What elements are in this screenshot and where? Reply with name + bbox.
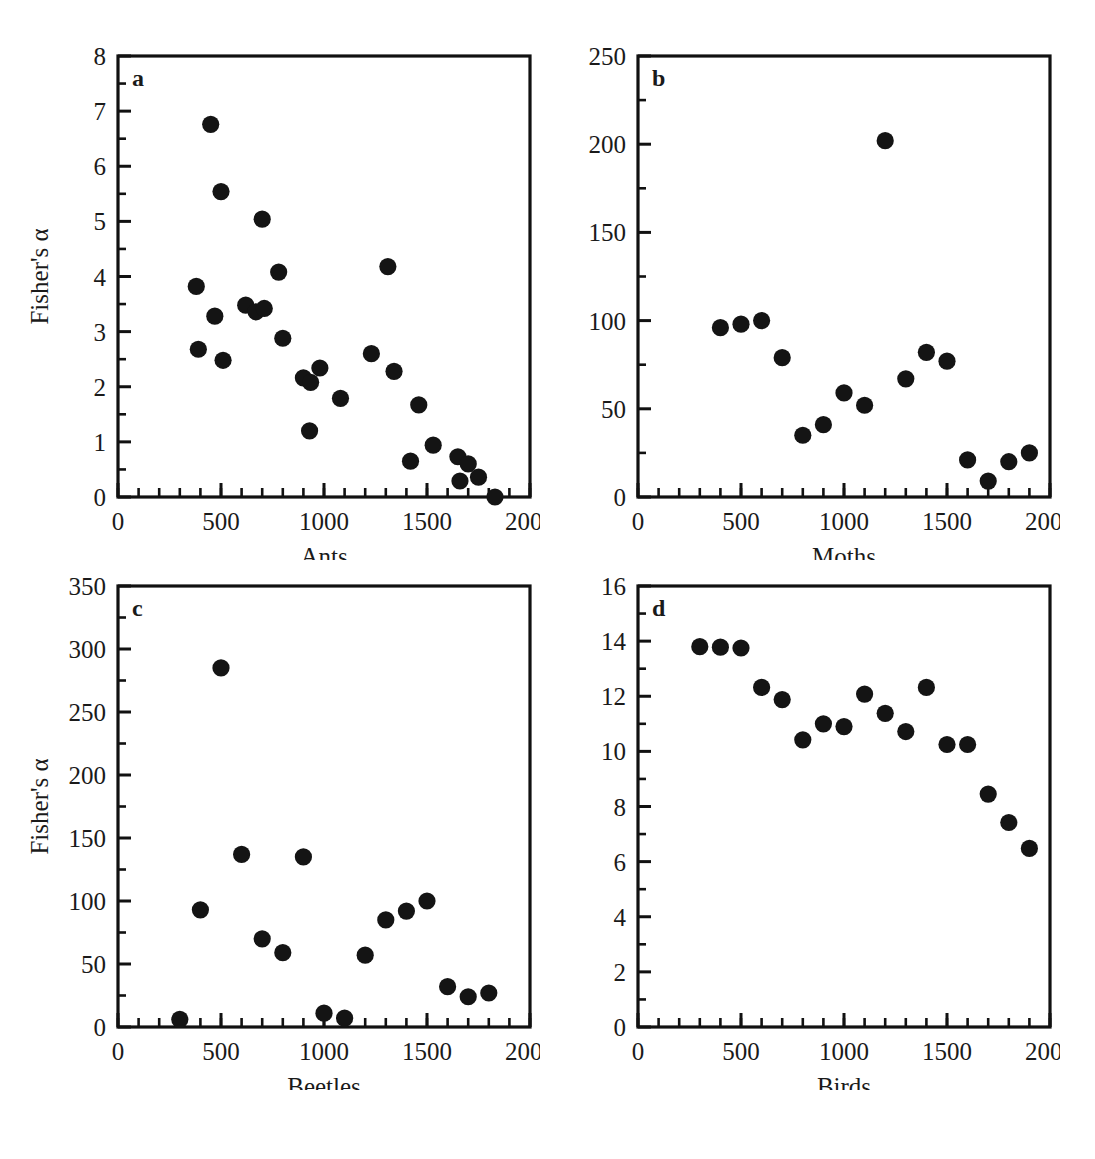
data-point xyxy=(732,316,749,333)
y-tick-label: 200 xyxy=(69,762,107,789)
data-point xyxy=(1000,814,1017,831)
x-axis-title: Birds xyxy=(817,1073,871,1090)
x-axis-title: Beetles xyxy=(287,1073,361,1090)
scatter-plot-b: 0500100015002000050100150200250bMoths xyxy=(520,0,1060,560)
y-axis-major-ticks: 0246810121416 xyxy=(601,573,651,1041)
y-tick-label: 250 xyxy=(589,43,627,70)
y-axis-title: Fisher's α xyxy=(26,228,53,324)
scatter-plot-d: 05001000150020000246810121416dBirdsEleva… xyxy=(520,530,1060,1090)
data-point xyxy=(486,488,503,505)
data-point xyxy=(918,679,935,696)
data-point xyxy=(1021,840,1038,857)
y-tick-label: 4 xyxy=(94,264,107,291)
data-point xyxy=(835,718,852,735)
data-point xyxy=(212,659,229,676)
y-tick-label: 100 xyxy=(589,308,627,335)
data-point xyxy=(192,901,209,918)
plot-frame xyxy=(118,56,530,497)
data-point xyxy=(332,390,349,407)
y-tick-label: 6 xyxy=(94,153,107,180)
x-tick-label: 0 xyxy=(112,1038,125,1065)
y-tick-label: 0 xyxy=(94,1014,107,1041)
data-point xyxy=(295,848,312,865)
data-point xyxy=(959,736,976,753)
data-point xyxy=(302,374,319,391)
data-point xyxy=(856,685,873,702)
y-tick-label: 350 xyxy=(69,573,107,600)
data-point xyxy=(877,132,894,149)
data-point xyxy=(918,344,935,361)
y-tick-label: 50 xyxy=(601,396,626,423)
x-tick-label: 1500 xyxy=(922,1038,972,1065)
data-point xyxy=(398,902,415,919)
data-point xyxy=(938,736,955,753)
data-point xyxy=(301,422,318,439)
y-tick-label: 2 xyxy=(94,374,107,401)
data-point xyxy=(385,363,402,380)
data-point xyxy=(410,396,427,413)
panel-letter: d xyxy=(652,595,666,621)
panel-b: 0500100015002000050100150200250bMoths xyxy=(520,0,1060,560)
data-point xyxy=(938,353,955,370)
data-point xyxy=(188,278,205,295)
y-tick-label: 3 xyxy=(94,319,107,346)
data-point xyxy=(470,469,487,486)
data-point xyxy=(171,1011,188,1028)
data-point xyxy=(897,723,914,740)
x-tick-label: 1000 xyxy=(819,1038,869,1065)
x-axis-major-ticks: 0500100015002000 xyxy=(632,483,1060,535)
data-points xyxy=(691,638,1038,857)
data-point xyxy=(835,384,852,401)
data-points xyxy=(188,116,504,506)
data-point xyxy=(1000,453,1017,470)
panel-c: 0500100015002000050100150200250300350cBe… xyxy=(0,530,540,1090)
y-tick-label: 7 xyxy=(94,98,107,125)
data-point xyxy=(712,319,729,336)
y-tick-label: 16 xyxy=(601,573,626,600)
data-point xyxy=(753,312,770,329)
y-tick-label: 2 xyxy=(614,959,627,986)
data-point xyxy=(233,846,250,863)
data-point xyxy=(206,308,223,325)
panel-letter: b xyxy=(652,65,665,91)
y-tick-label: 200 xyxy=(589,131,627,158)
y-tick-label: 1 xyxy=(94,429,107,456)
data-point xyxy=(212,183,229,200)
panel-a: 0500100015002000012345678aAntsFisher's α xyxy=(0,0,540,560)
x-tick-label: 1000 xyxy=(299,1038,349,1065)
plot-frame xyxy=(118,586,530,1027)
data-point xyxy=(357,947,374,964)
scatter-plot-a: 0500100015002000012345678aAntsFisher's α xyxy=(0,0,540,560)
data-point xyxy=(732,639,749,656)
panel-d: 05001000150020000246810121416dBirdsEleva… xyxy=(520,530,1060,1090)
y-tick-label: 150 xyxy=(69,825,107,852)
x-tick-label: 0 xyxy=(632,1038,645,1065)
data-point xyxy=(753,679,770,696)
y-tick-label: 0 xyxy=(614,484,627,511)
data-point xyxy=(274,944,291,961)
data-point xyxy=(877,705,894,722)
data-point xyxy=(311,359,328,376)
x-axis-major-ticks: 0500100015002000 xyxy=(632,1013,1060,1065)
y-tick-label: 4 xyxy=(614,904,627,931)
data-point xyxy=(202,116,219,133)
data-point xyxy=(270,263,287,280)
data-point xyxy=(897,370,914,387)
data-points xyxy=(712,132,1038,490)
y-tick-label: 100 xyxy=(69,888,107,915)
y-tick-label: 250 xyxy=(69,699,107,726)
plot-frame xyxy=(638,56,1050,497)
y-axis-major-ticks: 012345678 xyxy=(94,43,132,511)
y-tick-label: 150 xyxy=(589,219,627,246)
x-tick-label: 500 xyxy=(202,1038,240,1065)
data-points xyxy=(171,659,497,1028)
y-tick-label: 5 xyxy=(94,208,107,235)
data-point xyxy=(254,930,271,947)
x-tick-label: 1500 xyxy=(402,1038,452,1065)
data-point xyxy=(439,978,456,995)
x-axis-major-ticks: 0500100015002000 xyxy=(112,483,540,535)
data-point xyxy=(377,911,394,928)
x-tick-label: 500 xyxy=(722,1038,760,1065)
data-point xyxy=(254,211,271,228)
y-tick-label: 10 xyxy=(601,738,626,765)
